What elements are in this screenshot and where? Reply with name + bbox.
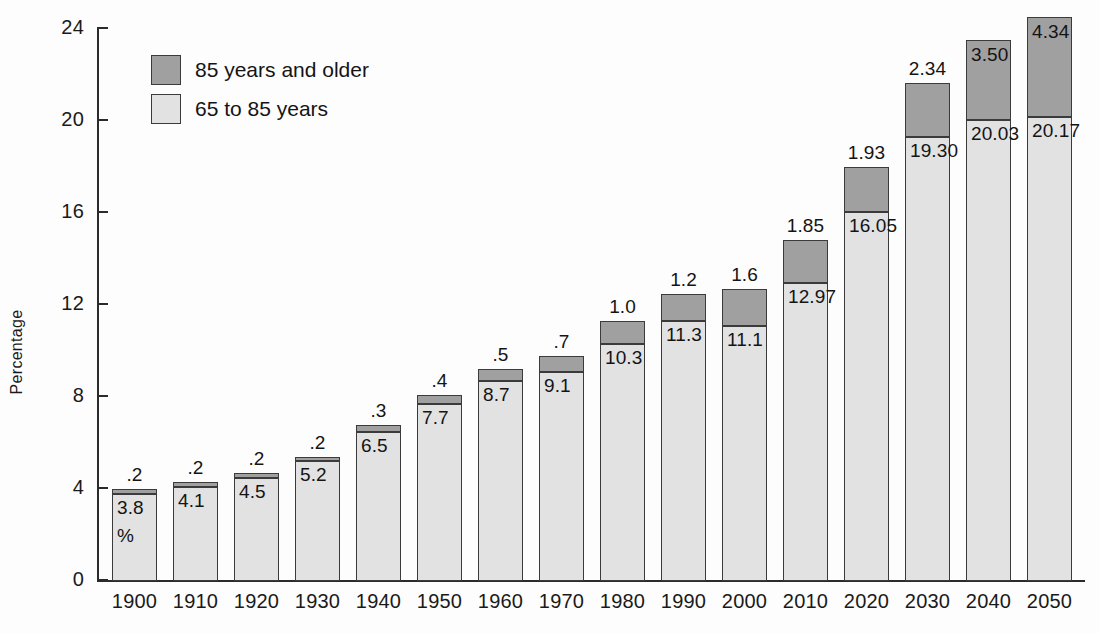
- value-label-65-to-85-1930: 5.2: [300, 465, 327, 485]
- y-axis-tick-label-12: 12: [38, 293, 84, 313]
- value-label-85-and-older-1950: .4: [417, 371, 462, 391]
- bar-segment-85-and-older-1990: [661, 294, 706, 322]
- y-axis-tick-label-4: 4: [38, 477, 84, 497]
- value-label-65-to-85-2030: 19.30: [910, 141, 958, 161]
- y-axis-tick-label-20: 20: [38, 109, 84, 129]
- percent-sign-annotation: %: [117, 526, 134, 546]
- x-axis-label-1900: 1900: [102, 590, 167, 612]
- value-label-65-to-85-2040: 20.03: [971, 124, 1019, 144]
- bar-2050[interactable]: 20.174.34: [1027, 17, 1072, 581]
- x-axis-label-2010: 2010: [773, 590, 838, 612]
- bar-1950[interactable]: 7.7.4: [417, 395, 462, 581]
- y-axis-tick-0: [97, 579, 108, 581]
- x-axis-label-2000: 2000: [712, 590, 777, 612]
- value-label-85-and-older-1910: .2: [173, 458, 218, 478]
- bar-segment-85-and-older-1980: [600, 321, 645, 344]
- bar-1930[interactable]: 5.2.2: [295, 457, 340, 581]
- value-label-85-and-older-2020: 1.93: [844, 143, 889, 163]
- y-axis-tick-24: [97, 27, 108, 29]
- value-label-85-and-older-1900: .2: [112, 465, 157, 485]
- bar-1990[interactable]: 11.31.2: [661, 294, 706, 582]
- value-label-65-to-85-2020: 16.05: [849, 216, 897, 236]
- y-axis-tick-20: [97, 119, 108, 121]
- x-axis-label-2020: 2020: [834, 590, 899, 612]
- bar-segment-65-to-85-1970: [539, 372, 584, 581]
- value-label-85-and-older-1960: .5: [478, 345, 523, 365]
- bar-segment-65-to-85-1990: [661, 321, 706, 581]
- bar-segment-65-to-85-2000: [722, 326, 767, 581]
- bar-2020[interactable]: 16.051.93: [844, 167, 889, 581]
- x-axis-label-1940: 1940: [346, 590, 411, 612]
- y-axis-title: Percentage: [8, 292, 26, 412]
- value-label-85-and-older-1930: .2: [295, 433, 340, 453]
- y-axis-tick-4: [97, 487, 108, 489]
- bar-2030[interactable]: 19.302.34: [905, 83, 950, 581]
- bar-segment-85-and-older-1900: [112, 489, 157, 494]
- bar-1940[interactable]: 6.5.3: [356, 425, 401, 581]
- chart-container: Percentage 24201612840 3.8%.24.1.24.5.25…: [0, 0, 1100, 633]
- bar-1960[interactable]: 8.7.5: [478, 369, 523, 581]
- value-label-85-and-older-2040: 3.50: [971, 45, 1008, 65]
- legend-label: 65 to 85 years: [195, 98, 328, 120]
- value-label-65-to-85-1970: 9.1: [544, 376, 571, 396]
- bar-segment-85-and-older-2020: [844, 167, 889, 211]
- legend-swatch-icon: [151, 55, 181, 85]
- value-label-65-to-85-2010: 12.97: [788, 287, 836, 307]
- legend-swatch-icon: [151, 94, 181, 124]
- bar-segment-65-to-85-2040: [966, 120, 1011, 581]
- bar-segment-85-and-older-2000: [722, 289, 767, 326]
- value-label-85-and-older-1990: 1.2: [661, 270, 706, 290]
- x-axis-label-1980: 1980: [590, 590, 655, 612]
- value-label-65-to-85-1900: 3.8: [117, 498, 144, 518]
- value-label-65-to-85-1960: 8.7: [483, 385, 510, 405]
- value-label-65-to-85-2000: 11.1: [727, 330, 763, 350]
- bar-2040[interactable]: 20.033.50: [966, 40, 1011, 581]
- bar-1920[interactable]: 4.5.2: [234, 473, 279, 581]
- bar-segment-85-and-older-1930: [295, 457, 340, 462]
- bar-2010[interactable]: 12.971.85: [783, 240, 828, 581]
- value-label-85-and-older-1970: .7: [539, 332, 584, 352]
- bar-segment-85-and-older-1920: [234, 473, 279, 478]
- x-axis-label-2040: 2040: [956, 590, 1021, 612]
- bar-1970[interactable]: 9.1.7: [539, 356, 584, 581]
- bar-segment-85-and-older-1960: [478, 369, 523, 381]
- x-axis-label-1930: 1930: [285, 590, 350, 612]
- legend-item-85-and-older[interactable]: 85 years and older: [151, 55, 369, 85]
- bar-segment-85-and-older-2010: [783, 240, 828, 283]
- x-axis-label-1910: 1910: [163, 590, 228, 612]
- bar-1900[interactable]: 3.8%.2: [112, 489, 157, 581]
- bar-segment-65-to-85-2050: [1027, 117, 1072, 581]
- bar-segment-85-and-older-1940: [356, 425, 401, 432]
- x-axis-label-1970: 1970: [529, 590, 594, 612]
- bar-segment-65-to-85-2030: [905, 137, 950, 581]
- bar-segment-65-to-85-1960: [478, 381, 523, 581]
- value-label-65-to-85-1920: 4.5: [239, 482, 266, 502]
- value-label-85-and-older-1980: 1.0: [600, 297, 645, 317]
- bar-segment-65-to-85-1950: [417, 404, 462, 581]
- value-label-65-to-85-1910: 4.1: [178, 491, 205, 511]
- value-label-65-to-85-1990: 11.3: [666, 325, 702, 345]
- bar-1910[interactable]: 4.1.2: [173, 482, 218, 581]
- bar-segment-85-and-older-1910: [173, 482, 218, 487]
- value-label-85-and-older-2050: 4.34: [1032, 22, 1069, 42]
- bar-1980[interactable]: 10.31.0: [600, 321, 645, 581]
- y-axis-tick-label-16: 16: [38, 201, 84, 221]
- bar-2000[interactable]: 11.11.6: [722, 289, 767, 581]
- bar-segment-85-and-older-1970: [539, 356, 584, 372]
- bar-segment-65-to-85-1980: [600, 344, 645, 581]
- y-axis-tick-8: [97, 395, 108, 397]
- y-axis-tick-16: [97, 211, 108, 213]
- y-axis-tick-12: [97, 303, 108, 305]
- bar-segment-85-and-older-2030: [905, 83, 950, 137]
- value-label-85-and-older-2030: 2.34: [905, 59, 950, 79]
- x-axis-label-2030: 2030: [895, 590, 960, 612]
- x-axis-label-1960: 1960: [468, 590, 533, 612]
- value-label-85-and-older-1940: .3: [356, 401, 401, 421]
- x-axis-label-1950: 1950: [407, 590, 472, 612]
- value-label-65-to-85-1950: 7.7: [422, 408, 449, 428]
- y-axis-tick-label-24: 24: [38, 17, 84, 37]
- legend-item-65-to-85[interactable]: 65 to 85 years: [151, 94, 369, 124]
- value-label-85-and-older-2010: 1.85: [783, 216, 828, 236]
- y-axis-tick-label-0: 0: [38, 569, 84, 589]
- value-label-65-to-85-1980: 10.3: [605, 348, 642, 368]
